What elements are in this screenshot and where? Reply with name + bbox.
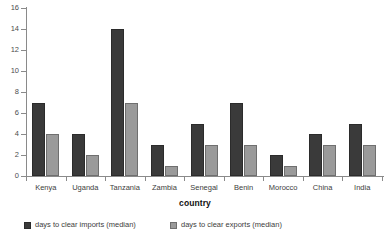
bar-exports [46,134,59,176]
x-axis-tick [303,177,304,181]
bar-group [270,8,297,176]
y-axis-tick-label: 16 [0,4,19,12]
legend-label-imports: days to clear imports (median) [35,221,136,229]
legend-swatch-imports-icon [24,222,31,229]
bar-exports [323,145,336,177]
bar-exports [165,166,178,177]
bar-imports [191,124,204,177]
x-axis-tick [26,177,27,181]
legend-label-exports: days to clear exports (median) [181,221,282,229]
bar-group [309,8,336,176]
chart-legend: days to clear imports (median) days to c… [24,219,374,231]
x-axis-line [26,176,384,177]
bar-group [151,8,178,176]
bar-group [72,8,99,176]
x-axis-tick [263,177,264,181]
x-axis-tick [66,177,67,181]
bar-imports [270,155,283,176]
y-axis-tick-label: 12 [0,46,19,54]
y-axis-tick-label: 10 [0,67,19,75]
bar-imports [111,29,124,176]
legend-item-exports: days to clear exports (median) [170,219,282,231]
bar-exports [125,103,138,177]
plot-area [26,8,382,176]
x-axis-tick [145,177,146,181]
y-axis-tick-label: 8 [0,88,19,96]
bar-group [349,8,376,176]
y-axis-tick-label: 14 [0,25,19,33]
bar-exports [363,145,376,177]
bar-group [230,8,257,176]
bar-imports [72,134,85,176]
y-axis-tick-label: 6 [0,109,19,117]
bar-imports [349,124,362,177]
bar-imports [309,134,322,176]
bar-group [191,8,218,176]
x-axis-tick [105,177,106,181]
bar-exports [86,155,99,176]
bar-group [111,8,138,176]
bar-imports [151,145,164,177]
bar-exports [205,145,218,177]
legend-item-imports: days to clear imports (median) [24,219,136,231]
bar-imports [230,103,243,177]
bar-imports [32,103,45,177]
y-axis-tick-label: 0 [0,172,19,180]
x-axis-tick [382,177,383,181]
bar-exports [244,145,257,177]
legend-swatch-exports-icon [170,222,177,229]
bar-exports [284,166,297,177]
x-axis-title: country [0,198,390,208]
x-axis-tick [184,177,185,181]
x-axis-tick [342,177,343,181]
x-axis-category-label: India [322,183,390,192]
bar-group [32,8,59,176]
y-axis-tick-label: 2 [0,151,19,159]
bar-chart: 0246810121416 KenyaUgandaTanzaniaZambiaS… [0,0,390,236]
x-axis-tick [224,177,225,181]
y-axis-tick-label: 4 [0,130,19,138]
